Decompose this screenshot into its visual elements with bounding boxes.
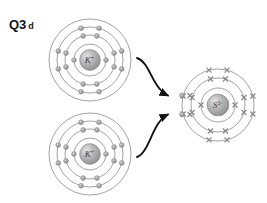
electron-cross	[224, 137, 229, 142]
electron-dot	[95, 176, 100, 181]
electron-dot	[97, 120, 102, 125]
electron-dot	[95, 34, 100, 39]
electron-cross	[250, 111, 255, 116]
question-part: d	[28, 21, 34, 31]
nucleus-charge: +	[91, 54, 95, 61]
electron-dot	[81, 82, 86, 87]
electron-dot	[72, 58, 77, 63]
electron-dot	[56, 161, 61, 166]
electron-transfer-arrow-top	[137, 58, 168, 96]
electron-dot	[64, 65, 69, 70]
electron-dot	[81, 176, 86, 181]
electron-dot	[79, 26, 84, 31]
electron-dot	[112, 65, 117, 70]
nucleus-charge: +	[91, 148, 95, 155]
electron-dot	[72, 152, 77, 157]
electron-dot	[79, 183, 84, 188]
nucleus-charge: 2-	[217, 99, 222, 106]
electron-dot	[81, 34, 86, 39]
electron-dot	[104, 58, 109, 63]
electron-dot	[97, 26, 102, 31]
electron-cross	[241, 95, 246, 100]
electron-dot	[79, 89, 84, 94]
potassium-ion-bottom: K+	[49, 113, 131, 195]
electron-dot	[119, 161, 124, 166]
electron-dot	[56, 143, 61, 148]
electron-dot	[79, 120, 84, 125]
electron-dot	[112, 159, 117, 164]
electron-dot	[112, 51, 117, 56]
electron-dot	[112, 145, 117, 150]
electron-dot	[95, 82, 100, 87]
transferred-electron-1	[180, 93, 185, 98]
electron-cross	[224, 68, 229, 73]
electron-dot	[104, 152, 109, 157]
electron-transfer-arrow-bottom	[137, 115, 168, 158]
transferred-electron-2	[180, 112, 185, 117]
electron-dot	[119, 143, 124, 148]
electron-dot	[119, 67, 124, 72]
electron-dot	[64, 159, 69, 164]
electron-dot	[56, 67, 61, 72]
electron-dot	[56, 49, 61, 54]
potassium-ion-top: K+	[49, 19, 131, 101]
electron-cross	[223, 128, 228, 133]
electron-cross	[208, 128, 213, 133]
diagram-canvas: Q3d K+ K+ S2-	[0, 0, 267, 203]
electron-cross	[188, 112, 193, 117]
electron-dot	[119, 49, 124, 54]
electron-dot	[64, 51, 69, 56]
electron-dot	[97, 89, 102, 94]
ionic-bonding-diagram: K+ K+ S2-	[0, 0, 267, 203]
question-number: Q3	[9, 17, 26, 32]
electron-cross	[207, 68, 212, 73]
electron-cross	[207, 137, 212, 142]
sulfide-ion: S2-	[180, 68, 256, 143]
electron-dot	[97, 183, 102, 188]
electron-transfer-arrows	[137, 58, 168, 157]
electron-cross	[188, 93, 193, 98]
electron-dot	[81, 128, 86, 133]
electron-cross	[241, 110, 246, 115]
electron-cross	[250, 94, 255, 99]
electron-dot	[64, 145, 69, 150]
electron-cross	[223, 77, 228, 82]
electron-dot	[95, 128, 100, 133]
question-label: Q3d	[9, 18, 34, 31]
electron-cross	[208, 77, 213, 82]
